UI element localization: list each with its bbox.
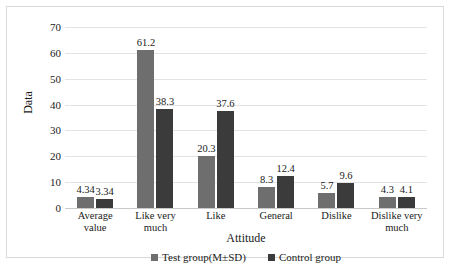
- bar-group: 20.337.6: [186, 27, 246, 208]
- y-tick-label: 70: [27, 22, 61, 33]
- y-tick-label: 0: [27, 203, 61, 214]
- x-axis-title: Attitude: [65, 231, 427, 246]
- bar[interactable]: [337, 183, 354, 208]
- x-tick-label: General: [246, 210, 306, 222]
- bar[interactable]: [137, 50, 154, 208]
- legend-item[interactable]: Test group(M±SD): [151, 252, 246, 263]
- legend: Test group(M±SD)Control group: [65, 250, 427, 264]
- bar[interactable]: [77, 197, 94, 208]
- y-tick-label: 10: [27, 177, 61, 188]
- bar[interactable]: [277, 176, 294, 208]
- bar-group: 5.79.6: [306, 27, 366, 208]
- x-tick-label-line: General: [246, 210, 306, 222]
- bar[interactable]: [379, 197, 396, 208]
- legend-swatch-icon: [151, 254, 158, 261]
- x-tick-label-line: Dislike: [306, 210, 366, 222]
- legend-label: Test group(M±SD): [162, 252, 246, 263]
- bar[interactable]: [217, 111, 234, 208]
- legend-label: Control group: [279, 252, 341, 263]
- bar-value-label: 9.6: [331, 171, 360, 181]
- x-tick-label-line: Dislike very: [367, 210, 427, 222]
- bar-group: 8.312.4: [246, 27, 306, 208]
- bar-value-label: 3.34: [90, 187, 119, 197]
- chart-frame: 706050403020100 Data 4.343.3461.238.320.…: [6, 6, 444, 258]
- bar-value-label: 61.2: [131, 38, 160, 48]
- bar-value-label: 4.1: [392, 185, 421, 195]
- y-axis-title: Data: [21, 73, 36, 133]
- bar[interactable]: [398, 197, 415, 208]
- x-tick-label: Like: [186, 210, 246, 222]
- x-tick-label-line: Like: [186, 210, 246, 222]
- legend-swatch-icon: [268, 254, 275, 261]
- bar[interactable]: [258, 187, 275, 208]
- y-tick-label: 20: [27, 151, 61, 162]
- bar-group: 4.343.34: [65, 27, 125, 208]
- x-tick-label-line: Average: [65, 210, 125, 222]
- bar[interactable]: [318, 193, 335, 208]
- bar[interactable]: [198, 156, 215, 208]
- bar-value-label: 38.3: [150, 97, 179, 107]
- x-axis-line: [65, 208, 427, 209]
- bar[interactable]: [156, 109, 173, 208]
- bar-value-label: 37.6: [211, 99, 240, 109]
- plot-area: 4.343.3461.238.320.337.68.312.45.79.64.3…: [65, 27, 427, 208]
- figure: 706050403020100 Data 4.343.3461.238.320.…: [0, 0, 455, 277]
- y-tick-label: 60: [27, 48, 61, 59]
- bar-series-container: 4.343.3461.238.320.337.68.312.45.79.64.3…: [65, 27, 427, 208]
- x-tick-label: Dislike: [306, 210, 366, 222]
- bar[interactable]: [96, 199, 113, 208]
- bar-group: 4.34.1: [367, 27, 427, 208]
- bar-value-label: 12.4: [271, 164, 300, 174]
- bar-group: 61.238.3: [125, 27, 185, 208]
- x-tick-label-line: Like very: [125, 210, 185, 222]
- legend-item[interactable]: Control group: [268, 252, 341, 263]
